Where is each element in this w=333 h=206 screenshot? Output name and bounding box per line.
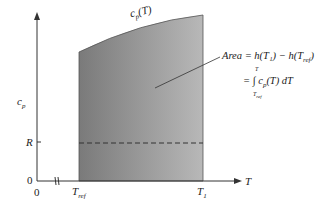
integral-upper-limit: T	[255, 66, 258, 72]
area-under-curve	[79, 15, 203, 181]
axis-break-icon-2	[58, 177, 59, 185]
x-axis-arrow-icon	[234, 178, 242, 184]
origin-y-label: 0	[27, 175, 33, 186]
diagram-canvas	[0, 0, 333, 206]
y-axis-arrow-icon	[34, 12, 40, 20]
axis-break-icon	[55, 177, 56, 185]
t-ref-label: Tref	[72, 186, 86, 200]
origin-x-label: 0	[34, 187, 40, 198]
integral-equation: = ∫ cp(T) dT	[243, 76, 293, 89]
y-axis-label: cp	[17, 96, 25, 110]
x-axis-label: T	[245, 176, 251, 187]
area-equation: Area = h(T₁) − h(Tref)	[222, 51, 314, 64]
t1-label: T1	[197, 186, 207, 200]
r-label: R	[26, 137, 33, 148]
integral-lower-limit: Tref	[253, 91, 262, 99]
